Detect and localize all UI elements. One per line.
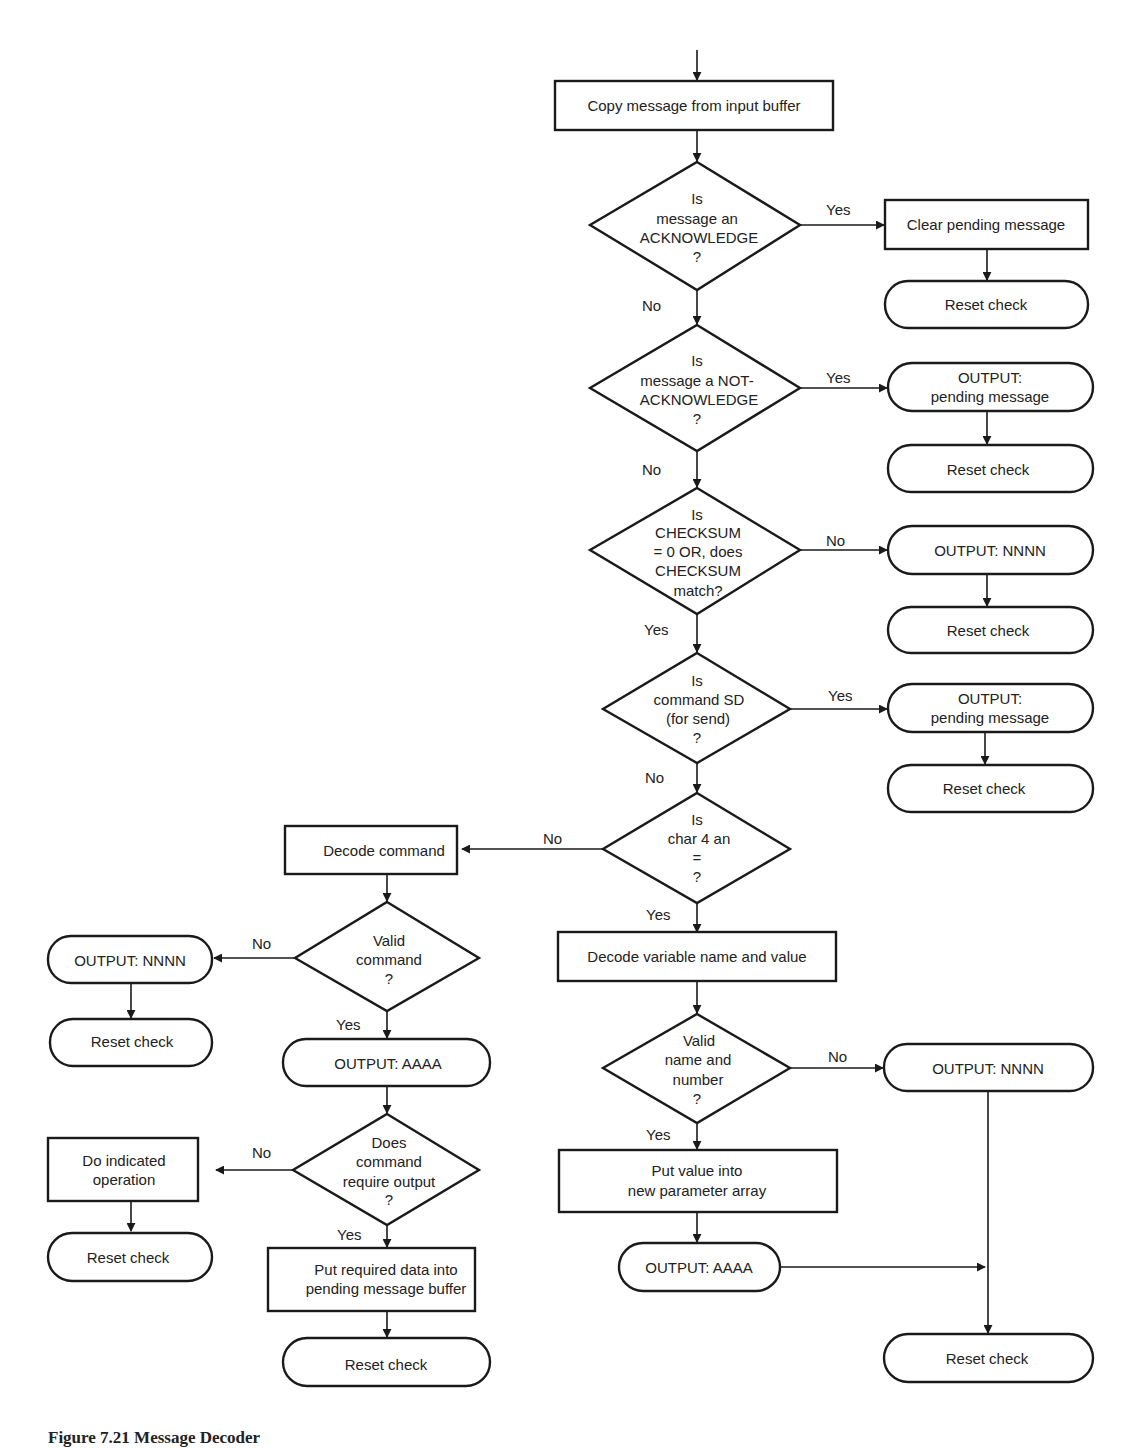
label-valid-name-no: No xyxy=(828,1048,847,1065)
svg-text:pending message buffer: pending message buffer xyxy=(306,1280,467,1297)
terminal-output-pending-message-2: OUTPUT: pending message xyxy=(888,684,1093,732)
svg-text:?: ? xyxy=(693,248,701,265)
label-nack-yes: Yes xyxy=(826,369,850,386)
svg-text:Reset check: Reset check xyxy=(345,1356,428,1373)
terminal-output-aaaa-1: OUTPUT: AAAA xyxy=(283,1039,490,1086)
decision-is-acknowledge: Is message an ACKNOWLEDGE ? xyxy=(590,162,800,290)
svg-text:message an: message an xyxy=(656,210,738,227)
svg-text:Clear pending message: Clear pending message xyxy=(907,216,1065,233)
decision-requires-output: Does command require output ? xyxy=(293,1114,479,1225)
svg-text:Decode variable name and value: Decode variable name and value xyxy=(587,948,806,965)
svg-text:?: ? xyxy=(385,1191,393,1208)
label-valid-cmd-no: No xyxy=(252,935,271,952)
svg-text:number: number xyxy=(673,1071,724,1088)
terminal-output-nnnn-2: OUTPUT: NNNN xyxy=(48,936,212,983)
svg-text:pending message: pending message xyxy=(931,388,1049,405)
svg-text:Reset check: Reset check xyxy=(946,1350,1029,1367)
svg-text:Do indicated: Do indicated xyxy=(82,1152,165,1169)
svg-text:command SD: command SD xyxy=(654,691,745,708)
process-decode-variable: Decode variable name and value xyxy=(558,932,836,981)
svg-text:=: = xyxy=(693,849,702,866)
terminal-reset-check-2: Reset check xyxy=(888,445,1093,492)
svg-text:operation: operation xyxy=(93,1171,156,1188)
svg-text:OUTPUT:: OUTPUT: xyxy=(958,369,1022,386)
svg-text:name and: name and xyxy=(665,1051,732,1068)
svg-text:(for send): (for send) xyxy=(666,710,730,727)
svg-text:?: ? xyxy=(693,1090,701,1107)
svg-text:require output: require output xyxy=(343,1173,436,1190)
svg-text:Put value into: Put value into xyxy=(652,1162,743,1179)
svg-text:char 4 an: char 4 an xyxy=(668,830,731,847)
decision-valid-command: Valid command ? xyxy=(295,902,479,1011)
decision-is-char4-equals: Is char 4 an = ? xyxy=(603,793,790,903)
svg-text:Reset check: Reset check xyxy=(91,1033,174,1050)
svg-text:= 0 OR, does: = 0 OR, does xyxy=(654,543,743,560)
decision-is-not-acknowledge: Is message a NOT- ACKNOWLEDGE ? xyxy=(590,325,800,451)
terminal-reset-check-5: Reset check xyxy=(50,1019,212,1066)
svg-text:Reset check: Reset check xyxy=(87,1249,170,1266)
svg-text:Copy message from input buffer: Copy message from input buffer xyxy=(587,97,800,114)
terminal-reset-check-4: Reset check xyxy=(888,765,1093,812)
svg-text:new parameter array: new parameter array xyxy=(628,1182,767,1199)
terminal-reset-check-6: Reset check xyxy=(48,1233,212,1281)
label-ack-no: No xyxy=(642,297,661,314)
svg-text:?: ? xyxy=(385,970,393,987)
figure-caption: Figure 7.21 Message Decoder xyxy=(48,1428,260,1448)
terminal-reset-check-7: Reset check xyxy=(283,1338,490,1386)
process-put-required-data: Put required data into pending message b… xyxy=(268,1248,475,1311)
svg-text:message a NOT-: message a NOT- xyxy=(640,372,753,389)
svg-text:CHECKSUM: CHECKSUM xyxy=(655,562,741,579)
process-put-value: Put value into new parameter array xyxy=(559,1150,837,1212)
svg-text:OUTPUT:: OUTPUT: xyxy=(958,690,1022,707)
svg-text:Valid: Valid xyxy=(683,1032,715,1049)
label-checksum-yes: Yes xyxy=(644,621,668,638)
svg-text:command: command xyxy=(356,951,422,968)
svg-text:OUTPUT: NNNN: OUTPUT: NNNN xyxy=(74,952,186,969)
svg-text:Is: Is xyxy=(691,811,703,828)
svg-text:ACKNOWLEDGE: ACKNOWLEDGE xyxy=(640,229,758,246)
svg-text:Valid: Valid xyxy=(373,932,405,949)
label-valid-name-yes: Yes xyxy=(646,1126,670,1143)
label-valid-cmd-yes: Yes xyxy=(336,1016,360,1033)
label-nack-no: No xyxy=(642,461,661,478)
label-char4-yes: Yes xyxy=(646,906,670,923)
svg-text:Decode command: Decode command xyxy=(323,842,445,859)
terminal-output-nnnn-3: OUTPUT: NNNN xyxy=(884,1044,1093,1091)
label-sd-yes: Yes xyxy=(828,687,852,704)
svg-text:OUTPUT: NNNN: OUTPUT: NNNN xyxy=(934,542,1046,559)
svg-text:OUTPUT: AAAA: OUTPUT: AAAA xyxy=(334,1055,442,1072)
label-checksum-no: No xyxy=(826,532,845,549)
svg-text:CHECKSUM: CHECKSUM xyxy=(655,524,741,541)
process-clear-pending-message: Clear pending message xyxy=(885,200,1088,249)
terminal-output-nnnn-1: OUTPUT: NNNN xyxy=(888,526,1093,574)
svg-text:Is: Is xyxy=(691,506,703,523)
svg-text:Reset check: Reset check xyxy=(943,780,1026,797)
decision-checksum: Is CHECKSUM = 0 OR, does CHECKSUM match? xyxy=(590,488,800,614)
decision-is-command-sd: Is command SD (for send) ? xyxy=(603,653,790,763)
label-req-out-yes: Yes xyxy=(337,1226,361,1243)
svg-text:Is: Is xyxy=(691,190,703,207)
svg-text:Put required data into: Put required data into xyxy=(314,1261,457,1278)
svg-text:Does: Does xyxy=(371,1134,406,1151)
svg-text:?: ? xyxy=(693,729,701,746)
svg-text:OUTPUT: AAAA: OUTPUT: AAAA xyxy=(645,1259,753,1276)
process-copy-message: Copy message from input buffer xyxy=(555,81,833,130)
svg-text:OUTPUT: NNNN: OUTPUT: NNNN xyxy=(932,1060,1044,1077)
terminal-reset-check-1: Reset check xyxy=(885,281,1088,328)
decision-valid-name-number: Valid name and number ? xyxy=(603,1014,790,1123)
svg-text:Is: Is xyxy=(691,672,703,689)
svg-text:?: ? xyxy=(693,410,701,427)
process-decode-command: Decode command xyxy=(285,826,457,874)
svg-text:ACKNOWLEDGE: ACKNOWLEDGE xyxy=(640,391,758,408)
terminal-output-pending-message-1: OUTPUT: pending message xyxy=(888,363,1093,411)
label-ack-yes: Yes xyxy=(826,201,850,218)
terminal-output-aaaa-2: OUTPUT: AAAA xyxy=(619,1243,780,1291)
terminal-reset-check-8: Reset check xyxy=(884,1334,1093,1382)
svg-text:command: command xyxy=(356,1153,422,1170)
svg-text:match?: match? xyxy=(673,582,722,599)
svg-text:Reset check: Reset check xyxy=(947,622,1030,639)
svg-text:?: ? xyxy=(693,868,701,885)
label-sd-no: No xyxy=(645,769,664,786)
label-char4-no: No xyxy=(543,830,562,847)
